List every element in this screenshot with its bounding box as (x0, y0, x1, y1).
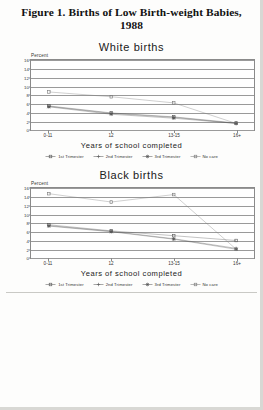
x-tick-mark (174, 258, 175, 261)
x-axis-white-births: 0-111213-1516+ (8, 131, 255, 142)
data-point-marker (110, 96, 113, 99)
legend-item[interactable]: 2nd Trimester (93, 282, 133, 287)
bottom-rule (6, 292, 257, 293)
data-point-marker (172, 117, 176, 121)
data-point-marker (172, 194, 175, 197)
scan-edge-right (260, 0, 263, 410)
y-axis-label-black: Percent (31, 181, 255, 186)
legend-item[interactable]: 3rd Trimester (142, 282, 181, 287)
x-tick-label: 12 (108, 133, 113, 138)
figure-title: Figure 1. Births of Low Birth-weight Bab… (0, 0, 263, 32)
chart-panel-black-births: Black births Percent 0246810121416 0-111… (0, 159, 263, 287)
data-point-marker (172, 235, 175, 238)
data-point-marker (109, 230, 113, 234)
y-axis-label-white: Percent (31, 53, 255, 58)
data-point-marker (172, 238, 176, 242)
x-axis-black-births: 0-111213-1516+ (8, 259, 255, 270)
legend-marker-open-square-icon (190, 282, 201, 287)
data-point-marker (47, 225, 51, 229)
legend-marker-plus-icon (93, 282, 104, 287)
plot-area-black-births: 0246810121416 (30, 187, 255, 259)
x-tick-label: 0-11 (44, 133, 53, 138)
data-point-marker (172, 102, 175, 105)
x-tick-label: 13-15 (168, 133, 180, 138)
chart-panel-white-births: White births Percent 0246810121416 0-111… (0, 32, 263, 159)
legend-label: 3rd Trimester (155, 282, 181, 287)
data-point-marker (47, 105, 51, 109)
legend-label: No care (203, 282, 218, 287)
figure-page: Figure 1. Births of Low Birth-weight Bab… (0, 0, 263, 410)
legend-item[interactable]: 1st Trimester (45, 282, 84, 287)
x-axis-title-black: Years of school completed (8, 269, 255, 278)
chart-title-black-births: Black births (0, 159, 263, 181)
legend-label: 1st Trimester (58, 282, 84, 287)
x-axis-title-white: Years of school completed (8, 141, 255, 150)
x-tick-mark (48, 258, 49, 261)
legend-marker-dash-square-icon (45, 282, 56, 287)
data-point-marker (109, 113, 113, 117)
legend-item[interactable]: No care (190, 282, 218, 287)
marker-layer (31, 188, 254, 258)
data-point-marker (48, 91, 51, 94)
x-tick-mark (111, 258, 112, 261)
legend-black-births: 1st Trimester2nd Trimester3rd TrimesterN… (8, 282, 255, 287)
x-tick-mark (48, 130, 49, 133)
marker-layer (31, 60, 254, 130)
chart-title-white-births: White births (0, 32, 263, 53)
legend-marker-star-icon (142, 282, 153, 287)
x-tick-mark (174, 130, 175, 133)
x-tick-label: 12 (108, 261, 113, 266)
data-point-marker (235, 240, 238, 243)
x-tick-mark (111, 130, 112, 133)
data-point-marker (48, 193, 51, 196)
plot-area-white-births: 0246810121416 (30, 59, 255, 131)
legend-label: 2nd Trimester (106, 282, 133, 287)
x-tick-label: 16+ (233, 261, 241, 266)
data-point-marker (110, 201, 113, 204)
x-tick-mark (237, 130, 238, 133)
x-tick-mark (237, 258, 238, 261)
x-tick-label: 0-11 (44, 261, 53, 266)
x-tick-label: 13-15 (168, 261, 180, 266)
x-tick-label: 16+ (233, 133, 241, 138)
